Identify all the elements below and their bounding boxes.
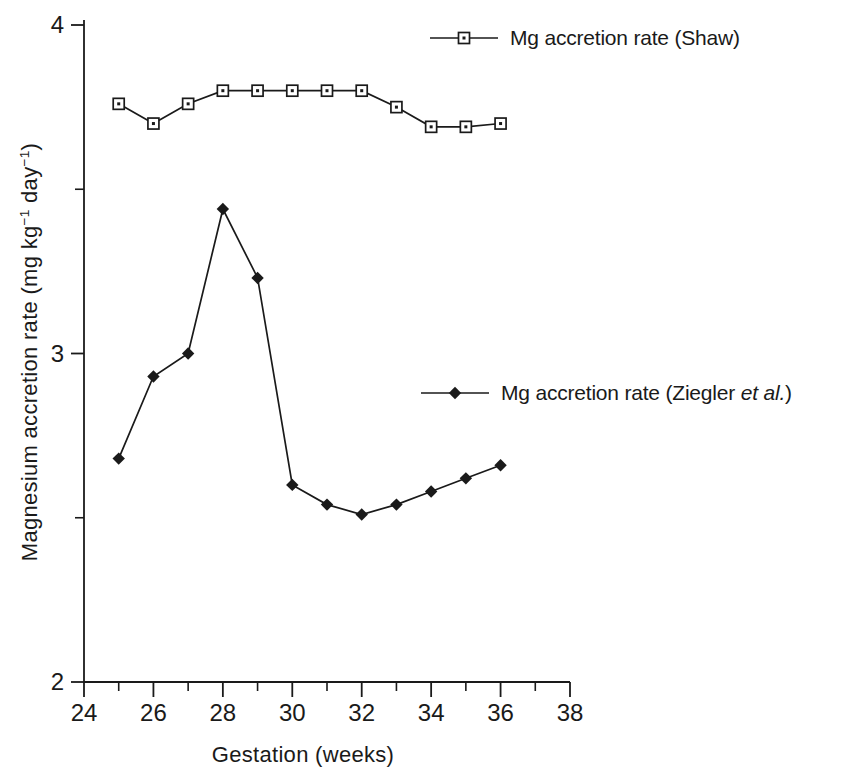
series-ziegler-line — [119, 209, 501, 515]
x-tick-label: 34 — [418, 699, 445, 726]
series-ziegler-marker — [460, 472, 472, 484]
series-shaw-marker-dot — [499, 122, 502, 125]
series-shaw-marker-dot — [291, 89, 294, 92]
legend-shaw: Mg accretion rate (Shaw) — [430, 25, 740, 51]
x-tick-label: 24 — [71, 699, 98, 726]
y-axis-title: Magnesium accretion rate (mg kg−1 day−1) — [17, 143, 43, 561]
series-shaw-marker-dot — [464, 125, 467, 128]
x-tick-label: 38 — [557, 699, 584, 726]
legend-ziegler: Mg accretion rate (Ziegler et al.) — [421, 380, 792, 406]
series-ziegler-marker — [356, 508, 368, 520]
x-tick-label: 32 — [348, 699, 375, 726]
y-tick-label: 2 — [51, 668, 64, 695]
series — [113, 85, 507, 520]
x-tick-label: 26 — [140, 699, 167, 726]
legend-ziegler-label: Mg accretion rate (Ziegler et al.) — [501, 381, 792, 405]
y-axis-title-superscript: −1 — [17, 150, 32, 166]
x-tick-label: 30 — [279, 699, 306, 726]
x-axis-title: Gestation (weeks) — [212, 742, 394, 768]
x-tick-label: 36 — [487, 699, 514, 726]
legend-shaw-label: Mg accretion rate (Shaw) — [510, 26, 740, 50]
series-ziegler-marker — [425, 485, 437, 497]
y-axis-title-superscript: −1 — [17, 209, 32, 225]
series-shaw-marker-dot — [430, 125, 433, 128]
y-axis-title-text: day — [17, 167, 42, 210]
series-ziegler-marker — [217, 203, 229, 215]
series-ziegler-marker — [390, 498, 402, 510]
series-shaw-marker-dot — [326, 89, 329, 92]
series-shaw-marker-dot — [221, 89, 224, 92]
series-ziegler-marker — [321, 498, 333, 510]
series-shaw-line — [119, 91, 501, 127]
y-tick-label: 3 — [51, 340, 64, 367]
series-shaw-marker-dot — [256, 89, 259, 92]
series-shaw-marker-dot — [117, 102, 120, 105]
series-shaw-marker-dot — [395, 106, 398, 109]
y-axis-title-text: Magnesium accretion rate (mg kg — [17, 225, 42, 561]
series-ziegler-marker — [494, 459, 506, 471]
series-ziegler-marker — [147, 370, 159, 382]
series-shaw-marker-dot — [187, 102, 190, 105]
series-shaw-marker-dot — [360, 89, 363, 92]
filled-diamond-marker-icon — [421, 380, 489, 406]
series-ziegler-marker — [182, 347, 194, 359]
y-tick-label: 4 — [51, 11, 64, 38]
series-ziegler-marker — [251, 272, 263, 284]
series-shaw-marker-dot — [152, 122, 155, 125]
x-tick-label: 28 — [210, 699, 237, 726]
open-square-marker-icon — [430, 25, 498, 51]
series-ziegler-marker — [113, 452, 125, 464]
chart-figure: 2426283032343638234 Magnesium accretion … — [0, 0, 868, 781]
y-axis-title-text: ) — [17, 143, 42, 151]
series-ziegler-marker — [286, 479, 298, 491]
